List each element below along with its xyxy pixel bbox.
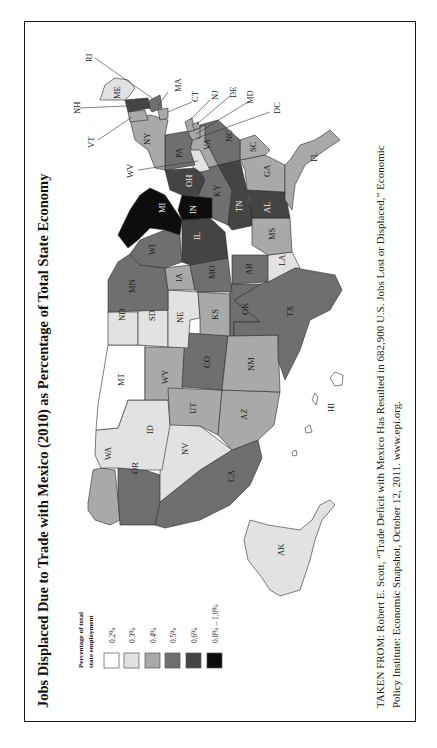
label-PA: PA <box>174 147 184 158</box>
label-OR: OR <box>130 462 140 474</box>
label-KS: KS <box>210 309 220 320</box>
legend-label-2: 0.4% <box>149 627 158 643</box>
label-MD: MD <box>245 90 255 104</box>
label-UT: UT <box>188 402 198 414</box>
state-OR <box>118 468 162 525</box>
label-LA: LA <box>277 254 287 266</box>
label-TN: TN <box>234 201 244 212</box>
label-FL: FL <box>309 152 319 162</box>
label-OK: OK <box>240 302 250 315</box>
chart-title: Jobs Displaced Due to Trade with Mexico … <box>35 173 52 708</box>
label-NJ: NJ <box>210 90 220 100</box>
legend-label-3: 0.5% <box>169 627 178 643</box>
legend-swatch-0 <box>104 653 119 668</box>
label-NV: NV <box>180 442 190 455</box>
us-map <box>88 78 343 596</box>
label-NE: NE <box>175 312 185 323</box>
label-WV: WV <box>125 163 135 178</box>
legend: Percentage of total state employment 0.2… <box>77 604 222 668</box>
label-WA: WA <box>103 446 113 460</box>
label-IA: IA <box>174 272 184 282</box>
label-MA: MA <box>173 77 183 92</box>
legend-title-line2: state employment <box>87 615 95 668</box>
legend-swatch-1 <box>124 653 139 668</box>
state-AZ <box>218 390 280 450</box>
label-WY: WY <box>160 370 170 384</box>
label-ND: ND <box>117 309 127 321</box>
label-NY: NY <box>142 133 152 145</box>
label-MN: MN <box>127 279 137 293</box>
state-AK <box>244 500 335 596</box>
label-CO: CO <box>202 356 212 368</box>
label-AL: AL <box>262 202 272 213</box>
label-TX: TX <box>285 306 295 317</box>
legend-swatch-2 <box>145 653 160 668</box>
source-line-1: TAKEN FROM: Robert E. Scott, “Trade Defi… <box>374 145 386 708</box>
label-SD: SD <box>147 310 157 321</box>
label-DC: DC <box>272 102 282 114</box>
label-SC: SC <box>248 141 258 152</box>
label-ID: ID <box>145 425 155 434</box>
map-figure: Jobs Displaced Due to Trade with Mexico … <box>0 0 437 748</box>
label-CA: CA <box>226 469 236 482</box>
label-RI: RI <box>84 53 94 62</box>
state-WA <box>88 468 120 525</box>
label-DE: DE <box>228 87 238 98</box>
label-MT: MT <box>116 372 126 386</box>
state-NH <box>125 98 150 112</box>
state-FL <box>285 130 340 210</box>
label-CT: CT <box>190 90 200 102</box>
label-AK: AK <box>276 543 286 556</box>
label-AZ: AZ <box>239 409 249 420</box>
label-GA: GA <box>262 164 272 177</box>
label-MI: MI <box>157 202 167 213</box>
label-NH: NH <box>72 102 82 114</box>
legend-swatch-3 <box>165 653 180 668</box>
legend-label-4: 0.6% <box>190 627 199 643</box>
legend-title-line1: Percentage of total <box>77 612 85 668</box>
label-ME: ME <box>112 86 122 99</box>
label-VA: VA <box>202 138 212 150</box>
label-MO: MO <box>207 265 217 279</box>
state-HI <box>292 372 343 456</box>
legend-label-5: 0.8% – 1.0% <box>211 604 220 643</box>
label-VT: VT <box>86 136 96 148</box>
legend-swatch-4 <box>186 653 201 668</box>
label-OH: OH <box>184 175 194 187</box>
source-line-2: Policy Institute: Economic Snapshot, Oct… <box>390 401 402 708</box>
legend-label-0: 0.2% <box>108 627 117 643</box>
state-CT <box>158 108 168 120</box>
label-HI: HI <box>326 403 336 412</box>
label-IN: IN <box>188 205 198 214</box>
state-VT <box>128 110 148 122</box>
label-NM: NM <box>246 357 256 371</box>
legend-swatch-5 <box>207 653 222 668</box>
label-MS: MS <box>267 227 277 240</box>
label-AR: AR <box>244 263 254 275</box>
state-IL <box>182 218 228 265</box>
label-WI: WI <box>147 244 157 255</box>
legend-label-1: 0.3% <box>128 627 137 643</box>
label-KY: KY <box>212 185 222 197</box>
label-NC: NC <box>224 130 234 142</box>
label-IL: IL <box>192 232 202 240</box>
